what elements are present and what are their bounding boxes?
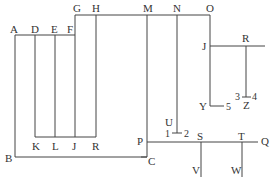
label-h: H (92, 2, 100, 14)
label-o: O (206, 2, 214, 14)
label-a: A (10, 23, 18, 35)
label-e: E (51, 23, 58, 35)
label-v: V (192, 164, 200, 176)
label-1: 1 (165, 128, 170, 139)
label-u: U (165, 116, 173, 128)
label-b: B (5, 152, 12, 164)
label-t: T (238, 130, 245, 142)
label-r-bottom: R (92, 140, 100, 152)
label-5: 5 (226, 101, 231, 112)
label-r-top: R (242, 32, 250, 44)
label-s: S (197, 130, 203, 142)
label-k: K (32, 140, 40, 152)
label-j-top: J (202, 40, 207, 52)
label-l: L (52, 140, 59, 152)
label-y: Y (199, 100, 207, 112)
label-f: F (67, 23, 73, 35)
label-3: 3 (235, 91, 240, 102)
label-p: P (137, 135, 143, 147)
label-2: 2 (184, 128, 189, 139)
line-diagram: A D E F G H M N O J R K L J R B C P Q S … (0, 0, 272, 181)
label-w: W (231, 164, 242, 176)
label-z: Z (243, 99, 250, 111)
label-d: D (31, 23, 39, 35)
label-n: N (173, 2, 181, 14)
label-m: M (143, 2, 153, 14)
label-j-bottom: J (72, 140, 77, 152)
label-4: 4 (252, 91, 257, 102)
label-g: G (73, 2, 81, 14)
label-q: Q (261, 135, 269, 147)
label-c: C (148, 155, 155, 167)
